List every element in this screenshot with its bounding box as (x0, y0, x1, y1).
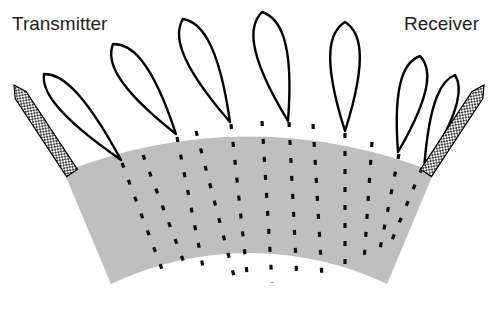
diagram-canvas: Transmitter Receiver (0, 0, 498, 311)
lobe-3 (179, 19, 230, 122)
receiver-probe (421, 85, 484, 177)
transmitter-probe (14, 85, 77, 177)
lobe-6 (397, 56, 428, 152)
beam-propagation-figure: Transmitter Receiver (0, 0, 498, 311)
lobe-2 (111, 44, 176, 134)
transmitter-label: Transmitter (12, 13, 108, 34)
lobe-4 (253, 12, 289, 121)
receiver-label: Receiver (404, 13, 480, 34)
lobe-5 (330, 22, 360, 131)
